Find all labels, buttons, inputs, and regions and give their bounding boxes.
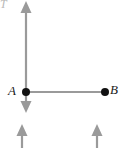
arrow-up-bottom-right-icon [92,124,103,136]
point-b-label: B [110,83,118,96]
top-left-label: T [0,0,7,10]
point-b-dot [101,88,109,96]
arrow-down-below-a-icon [21,101,32,113]
arrow-up-top-icon [21,1,32,13]
arrow-up-bottom-left-icon [17,124,28,136]
diagram-svg [0,0,124,148]
point-a-dot [22,88,30,96]
physics-diagram-canvas: T A B [0,0,124,148]
point-a-label: A [8,84,16,97]
